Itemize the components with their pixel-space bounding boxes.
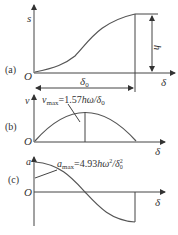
origin-b: O — [24, 135, 32, 147]
v-axis-label: v — [25, 95, 30, 106]
panel-b-label: (b) — [5, 121, 17, 133]
vmax-annotation: vmax=1.57hω/δ0 — [42, 94, 105, 107]
delta-axis-b-label: δ — [155, 145, 161, 157]
amax-annotation: amax=4.93hω2/δ02 — [57, 158, 123, 171]
origin-a: O — [24, 70, 32, 82]
delta0-label: δ0 — [80, 75, 89, 89]
a-axis-label: a — [26, 156, 31, 167]
delta-axis-a-label: δ — [161, 76, 167, 88]
panel-c-acceleration: a (c) O δ amax=4.93hω2/δ02 — [8, 156, 165, 226]
displacement-curve — [35, 14, 135, 72]
origin-c: O — [24, 186, 32, 198]
panel-a-label: (a) — [5, 64, 16, 76]
h-label: h — [152, 45, 163, 50]
panel-a-displacement: s (a) O δ h δ0 — [5, 5, 175, 92]
s-axis-label: s — [27, 12, 31, 24]
panel-c-label: (c) — [8, 174, 19, 186]
amax-leader — [35, 170, 57, 178]
delta-axis-c-label: δ — [155, 196, 161, 208]
cam-motion-diagram: s (a) O δ h δ0 v (b) O δ vmax=1.57hω/δ0 … — [0, 0, 178, 235]
panel-b-velocity: v (b) O δ vmax=1.57hω/δ0 — [5, 94, 165, 157]
